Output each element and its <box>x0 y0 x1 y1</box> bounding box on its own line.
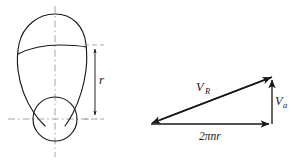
blade-silhouette <box>17 14 86 126</box>
label-axial-velocity-subscript: a <box>283 100 287 110</box>
vector-resultant-velocity-head <box>160 78 271 121</box>
label-axial-velocity: V a <box>275 94 287 110</box>
figure-root: r V R 2πnr V a <box>0 0 291 161</box>
technical-diagram-canvas: r V R 2πnr V a <box>0 0 291 161</box>
blade-chord-line <box>18 45 86 54</box>
dimension-label-r: r <box>99 72 105 87</box>
label-resultant-velocity-symbol: V <box>196 80 205 94</box>
velocity-triangle-group <box>151 77 272 124</box>
label-resultant-velocity-subscript: R <box>204 86 211 96</box>
label-resultant-velocity: V R <box>196 80 211 96</box>
blade-element-group <box>8 6 104 157</box>
label-rotational-velocity: 2πnr <box>199 130 221 142</box>
